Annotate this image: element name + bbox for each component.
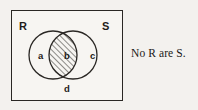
set-label-r: R bbox=[19, 21, 27, 32]
figure-caption: No R are S. bbox=[131, 47, 186, 59]
region-label-a: a bbox=[38, 51, 43, 61]
figure-canvas: R S a b c d No R are S. bbox=[0, 0, 198, 110]
region-label-c: c bbox=[90, 51, 95, 61]
region-label-d: d bbox=[64, 84, 70, 94]
set-label-s: S bbox=[102, 21, 110, 32]
region-label-b: b bbox=[64, 51, 70, 61]
